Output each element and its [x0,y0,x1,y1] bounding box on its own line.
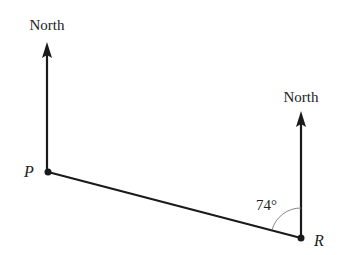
point-p [45,169,52,176]
point-label-r: R [313,232,324,249]
point-r [298,235,305,242]
bearing-diagram: North North 74° P R [0,0,344,255]
north-label-p: North [30,17,65,33]
north-arrow-r [296,111,306,238]
point-label-p: P [23,163,34,180]
north-arrow-p [42,42,52,172]
angle-label: 74° [256,197,277,213]
north-label-r: North [284,89,319,105]
